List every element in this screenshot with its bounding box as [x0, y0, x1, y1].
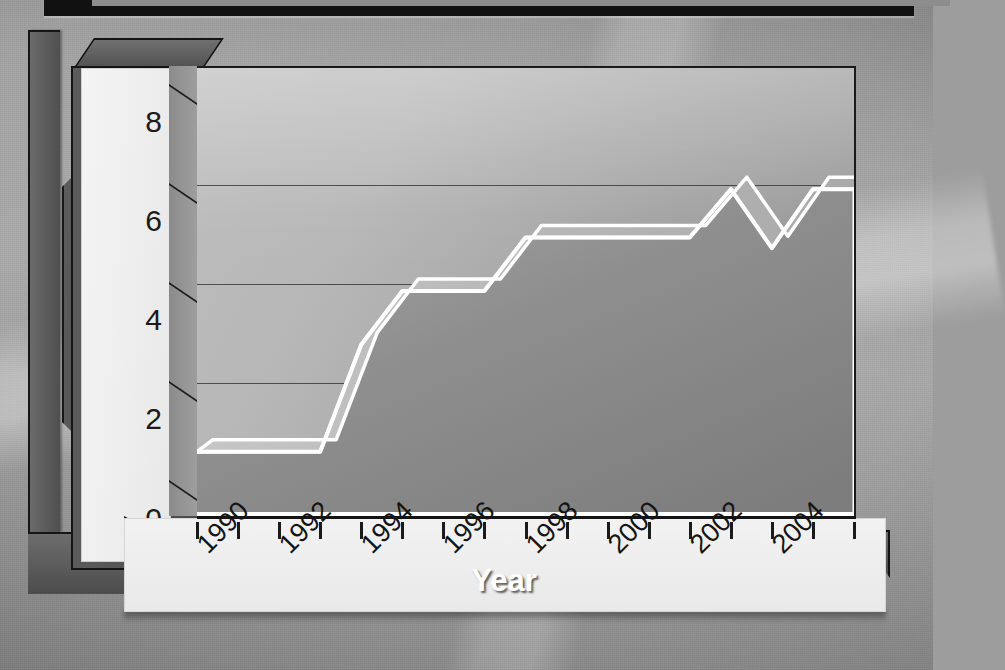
x-axis-title: Year	[124, 552, 884, 610]
y-axis-tick-label-strip: 8 6 4 2 0	[81, 68, 171, 562]
plot-left-wall	[169, 66, 199, 516]
x-tick-1995	[401, 522, 404, 539]
chart-frame-right-slab	[28, 30, 60, 532]
population-area-chart: Populations 8 6 4 2 0 Year 1990199219941…	[28, 30, 908, 645]
y-tick-label-2: 2	[145, 402, 162, 436]
x-tick-1997	[483, 522, 486, 539]
series-ribbon	[197, 66, 854, 518]
x-tick-1991	[237, 522, 240, 539]
x-axis-title-label: Year	[471, 563, 537, 599]
x-tick-2005	[812, 522, 815, 539]
y-tick-label-4: 4	[145, 303, 162, 337]
x-tick-2001	[648, 522, 651, 539]
y-tick-label-8: 8	[145, 105, 162, 139]
top-border-rule	[44, 0, 914, 16]
top-border-rule-inner	[92, 0, 950, 6]
y-tick-label-6: 6	[145, 204, 162, 238]
x-tick-2006	[853, 522, 856, 539]
x-tick-1993	[319, 522, 322, 539]
x-tick-2003	[730, 522, 733, 539]
x-tick-1999	[566, 522, 569, 539]
